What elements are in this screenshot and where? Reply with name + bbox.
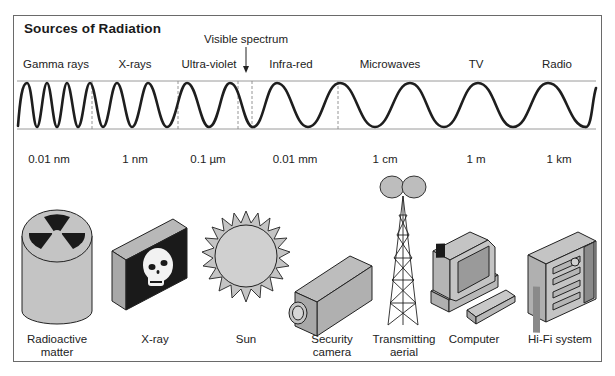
wave-tail-graphic: [0, 0, 615, 376]
wave-tail-path: [586, 88, 596, 127]
